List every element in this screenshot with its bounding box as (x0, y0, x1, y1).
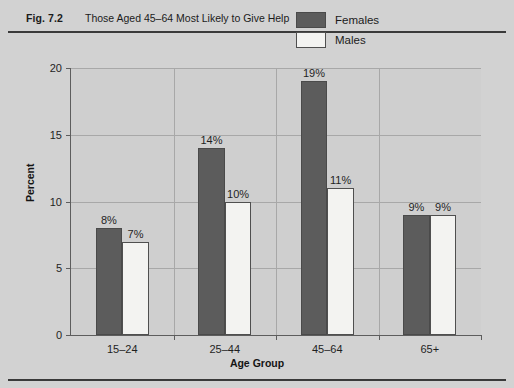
bar-value-label: 19% (303, 67, 325, 79)
bar-males-1[interactable]: 10% (225, 202, 252, 336)
y-axis-tick-label: 15 (50, 129, 62, 141)
bar-females-0[interactable]: 8% (96, 228, 123, 335)
y-axis-tick (66, 135, 71, 136)
x-axis-tick (276, 335, 277, 340)
y-axis-tick-label: 0 (56, 329, 62, 341)
y-axis-tick (66, 202, 71, 203)
legend-swatch-females (296, 12, 326, 28)
bar-value-label: 11% (330, 174, 351, 186)
x-axis-tick-label: 25–44 (209, 343, 240, 355)
x-axis-tick-label: 15–24 (107, 343, 138, 355)
header-divider (8, 31, 506, 33)
y-axis-tick-label: 10 (50, 196, 62, 208)
bar-value-label: 10% (227, 188, 249, 200)
bar-value-label: 14% (200, 134, 222, 146)
bar-females-1[interactable]: 14% (198, 148, 225, 335)
bar-females-2[interactable]: 19% (301, 81, 328, 335)
y-axis-tick-label: 5 (56, 262, 62, 274)
x-axis-tick (174, 335, 175, 340)
figure-number: Fig. 7.2 (26, 12, 63, 24)
gridline-vertical (276, 68, 277, 335)
chart-legend: Females Males (296, 12, 379, 48)
y-axis-tick (66, 268, 71, 269)
legend-label-females: Females (335, 14, 379, 26)
bar-females-3[interactable]: 9% (403, 215, 430, 335)
bar-males-2[interactable]: 11% (327, 188, 354, 335)
bar-males-3[interactable]: 9% (430, 215, 457, 335)
x-axis-tick-label: 65+ (420, 343, 439, 355)
gridline-vertical (174, 68, 175, 335)
x-axis-tick (379, 335, 380, 340)
plot-wrapper: 0510152015–248%7%25–4414%10%45–6419%11%6… (70, 68, 481, 336)
x-axis-title: Age Group (0, 357, 514, 369)
bar-value-label: 9% (435, 201, 451, 213)
bar-value-label: 7% (128, 228, 144, 240)
y-axis-tick (66, 68, 71, 69)
figure-header: Fig. 7.2 Those Aged 45–64 Most Likely to… (0, 6, 514, 30)
y-axis-tick-label: 20 (50, 62, 62, 74)
plot-area: 0510152015–248%7%25–4414%10%45–6419%11%6… (70, 68, 481, 336)
legend-item-females[interactable]: Females (296, 12, 379, 28)
bar-value-label: 9% (408, 201, 424, 213)
x-axis-tick (481, 335, 482, 340)
legend-label-males: Males (335, 34, 366, 46)
figure-container: Fig. 7.2 Those Aged 45–64 Most Likely to… (0, 0, 514, 388)
legend-swatch-males (296, 32, 326, 48)
legend-item-males[interactable]: Males (296, 32, 379, 48)
figure-caption: Those Aged 45–64 Most Likely to Give Hel… (85, 12, 289, 24)
bar-value-label: 8% (101, 214, 117, 226)
gridline-vertical (379, 68, 380, 335)
y-axis-title: Percent (24, 163, 36, 202)
y-axis-tick (66, 335, 71, 336)
footer-divider (8, 379, 506, 381)
x-axis-tick-label: 45–64 (312, 343, 343, 355)
bar-males-0[interactable]: 7% (122, 242, 149, 335)
